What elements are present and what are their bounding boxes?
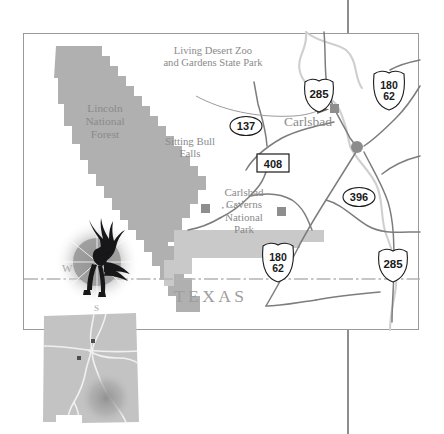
- shield-label-137: 137: [237, 120, 255, 132]
- shield-label-285-south: 285: [383, 258, 403, 270]
- shield-label-285-north: 285: [309, 88, 329, 100]
- compass-west-letter: W: [62, 262, 73, 274]
- shield-us-285-south[interactable]: 285: [379, 249, 408, 282]
- texas-label: TEXAS: [174, 286, 247, 307]
- shield-label-408: 408: [264, 158, 282, 170]
- shield-county-408[interactable]: 408: [257, 154, 289, 172]
- shield-us-285-north[interactable]: 285: [305, 79, 334, 112]
- map-page: 285 180 62 137 408 396: [0, 0, 444, 434]
- shield-label-62-south: 62: [272, 262, 284, 274]
- new-mexico-locator-inset[interactable]: [36, 310, 146, 432]
- shield-label-62-north: 62: [383, 90, 395, 102]
- detail-map-frame[interactable]: 285 180 62 137 408 396: [23, 33, 419, 330]
- compass-rose: W S: [48, 212, 146, 317]
- label-sitting-bull-falls: Sitting Bull Falls: [156, 135, 224, 159]
- label-carlsbad-city: Carlsbad: [284, 114, 368, 129]
- label-lincoln-national-forest: Lincoln National Forest: [72, 102, 138, 140]
- label-carlsbad-caverns-national-park: Carlsbad Caverns National Park: [212, 186, 276, 235]
- shield-us-180-62-north[interactable]: 180 62: [374, 71, 405, 110]
- shield-label-396: 396: [350, 191, 368, 203]
- inset-highlight-area: [80, 372, 132, 424]
- label-living-desert-zoo: Living Desert Zoo and Gardens State Park: [143, 45, 283, 69]
- shield-state-396[interactable]: 396: [343, 188, 375, 207]
- shield-state-137[interactable]: 137: [230, 117, 262, 136]
- shield-us-180-62-south[interactable]: 180 62: [263, 243, 294, 282]
